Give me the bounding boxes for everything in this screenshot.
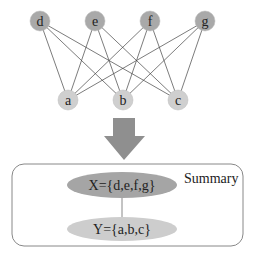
summary-title: Summary [184,171,238,186]
node-e: e [85,11,105,31]
node-b: b [113,90,133,110]
bipartite-edges [40,21,205,100]
edge-g-b [123,21,205,100]
node-label: e [92,14,98,29]
node-label: f [148,14,153,29]
edge-f-a [68,21,150,100]
edge-e-a [68,21,95,100]
node-a: a [58,90,78,110]
edge-g-c [178,21,205,100]
node-c: c [168,90,188,110]
node-label: b [120,93,127,108]
diagram-canvas: defgabc Summary X={d,e,f,g} Y={a,b,c} [0,0,257,256]
node-label: c [175,93,181,108]
bipartite-nodes: defgabc [30,11,215,110]
node-label: d [37,14,44,29]
node-f: f [140,11,160,31]
edge-d-a [40,21,68,100]
y-set-label: Y={a,b,c} [93,222,151,237]
node-label: a [65,93,72,108]
down-arrow-icon [104,118,145,160]
node-d: d [30,11,50,31]
edge-g-a [68,21,205,100]
x-set-label: X={d,e,f,g} [89,178,156,193]
node-label: g [202,14,209,29]
node-g: g [195,11,215,31]
